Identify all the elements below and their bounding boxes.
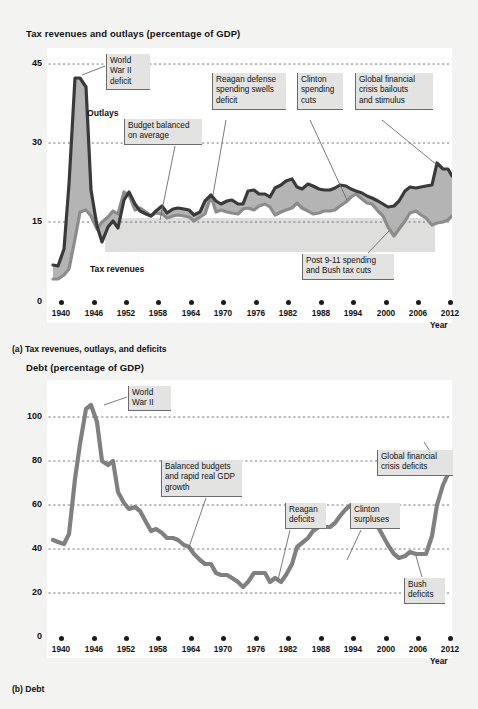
xtick-dot	[92, 636, 97, 641]
xtick-dot	[92, 300, 97, 305]
xtick-label: 1958	[143, 644, 173, 654]
xtick-dot	[156, 300, 161, 305]
callout-clinton-cuts: Clinton spending cuts	[297, 73, 343, 110]
panel-b-ytick-40: 40	[8, 543, 42, 553]
xtick-dot	[124, 300, 129, 305]
panel-b-ytick-80: 80	[8, 455, 42, 465]
xtick-dot	[59, 636, 64, 641]
xtick-label: 1994	[338, 644, 368, 654]
xtick-dot	[319, 636, 324, 641]
xtick-label: 1970	[208, 308, 238, 318]
xtick-dot	[416, 636, 421, 641]
leader-wwii	[82, 66, 105, 75]
xtick-label: 1958	[143, 308, 173, 318]
xtick-dot	[59, 300, 64, 305]
callout-balanced-budgets: Balanced budgets and rapid real GDP grow…	[161, 460, 242, 497]
callout-reagan-deficits: Reagan deficits	[285, 503, 326, 529]
xtick-label: 1952	[111, 308, 141, 318]
xtick-dot	[254, 636, 259, 641]
xtick-dot	[384, 300, 389, 305]
callout-wwii: World War II	[128, 386, 171, 411]
xtick-dot	[254, 300, 259, 305]
panel-a-xaxis-caption: Year	[430, 320, 448, 330]
panel-a-ytick-15: 15	[14, 216, 42, 226]
xtick-label: 2012	[435, 308, 465, 318]
panel-a-plot: 45 30 15 0 Outlays Tax revenues World Wa…	[0, 48, 478, 338]
panel-b-svg	[0, 380, 478, 680]
xtick-dot	[351, 300, 356, 305]
debt-line	[53, 405, 452, 587]
tax-revenues-series-label: Tax revenues	[90, 264, 144, 274]
panel-b-title: Debt (percentage of GDP)	[26, 362, 144, 373]
panel-a-ytick-30: 30	[14, 137, 42, 147]
xtick-dot	[221, 300, 226, 305]
xtick-label: 1940	[46, 308, 76, 318]
xtick-label: 1994	[338, 308, 368, 318]
xtick-dot	[189, 300, 194, 305]
callout-gfc-deficits: Global financial crisis deficits	[377, 450, 453, 476]
panel-a-title: Tax revenues and outlays (percentage of …	[26, 28, 240, 39]
callout-wwii-deficit: World War II deficit	[106, 54, 150, 90]
xtick-dot	[448, 300, 453, 305]
xtick-label: 1946	[79, 644, 109, 654]
panel-a-ytick-45: 45	[14, 58, 42, 68]
xtick-label: 1946	[79, 308, 109, 318]
callout-post-911: Post 9-11 spending and Bush tax cuts	[302, 254, 394, 280]
xtick-dot	[156, 636, 161, 641]
callout-clinton-surpluses: Clinton surpluses	[350, 503, 400, 529]
figure-page: Tax revenues and outlays (percentage of …	[0, 0, 478, 709]
panel-a-ytick-0: 0	[14, 296, 42, 306]
xtick-label: 2000	[371, 644, 401, 654]
panel-b-plot: 100 80 60 40 20 0 World War II Balanced …	[0, 380, 478, 680]
xtick-label: 1964	[176, 644, 206, 654]
xtick-label: 1964	[176, 308, 206, 318]
xtick-label: 1982	[273, 644, 303, 654]
xtick-label: 1982	[273, 308, 303, 318]
callout-reagan-defense: Reagan defense spending swells deficit	[212, 73, 286, 110]
xtick-label: 1976	[241, 308, 271, 318]
xtick-label: 2000	[371, 308, 401, 318]
panel-b-ytick-20: 20	[8, 587, 42, 597]
xtick-dot	[319, 300, 324, 305]
xtick-dot	[416, 300, 421, 305]
callout-bush-deficits: Bush deficits	[404, 578, 445, 604]
xtick-dot	[286, 300, 291, 305]
xtick-dot	[384, 636, 389, 641]
leader-wwii	[104, 397, 127, 405]
panel-b-xaxis-caption: Year	[430, 656, 448, 666]
xtick-dot	[286, 636, 291, 641]
xtick-label: 1988	[306, 308, 336, 318]
xtick-label: 2006	[403, 644, 433, 654]
xtick-dot	[124, 636, 129, 641]
xtick-label: 2006	[403, 308, 433, 318]
xtick-label: 1952	[111, 644, 141, 654]
xtick-label: 1970	[208, 644, 238, 654]
xtick-dot	[351, 636, 356, 641]
panel-a-caption: (a) Tax revenues, outlays, and deficits	[12, 344, 167, 354]
xtick-label: 1976	[241, 644, 271, 654]
xtick-dot	[221, 636, 226, 641]
panel-b-ytick-0: 0	[8, 631, 42, 641]
outlays-series-label: Outlays	[87, 108, 119, 118]
leader-bush-deficits	[416, 556, 422, 577]
xtick-dot	[448, 636, 453, 641]
xtick-label: 2012	[435, 644, 465, 654]
xtick-dot	[189, 636, 194, 641]
callout-budget-balanced: Budget balanced on average	[124, 119, 202, 145]
xtick-label: 1940	[46, 644, 76, 654]
callout-gfc-bailouts: Global financial crisis bailouts and sti…	[355, 73, 433, 110]
leader-reagan	[213, 120, 226, 195]
panel-b-ytick-60: 60	[8, 499, 42, 509]
leader-clinton-surpluses	[347, 530, 361, 560]
panel-b-caption: (b) Debt	[12, 684, 44, 694]
panel-b-ytick-100: 100	[8, 411, 42, 421]
xtick-label: 1988	[306, 644, 336, 654]
